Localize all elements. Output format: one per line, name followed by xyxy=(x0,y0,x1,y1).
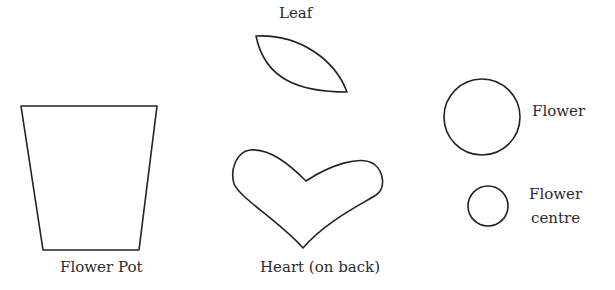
flower-centre-shape xyxy=(468,186,508,226)
leaf-label: Leaf xyxy=(279,5,312,22)
heart-shape xyxy=(233,150,383,248)
diagram-canvas xyxy=(0,0,615,290)
flower-pot-label: Flower Pot xyxy=(60,259,142,276)
flower-centre-label-line2: centre xyxy=(531,210,580,227)
flower-shape xyxy=(444,79,520,155)
flower-centre-label-line1: Flower xyxy=(529,186,582,203)
flower-pot-shape xyxy=(21,106,157,250)
leaf-shape xyxy=(256,36,347,92)
flower-label: Flower xyxy=(532,103,585,120)
heart-label: Heart (on back) xyxy=(260,259,380,276)
